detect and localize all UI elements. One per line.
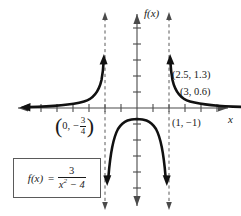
curve-left-branch — [20, 54, 108, 111]
fraction-numerator: 3 — [80, 116, 87, 125]
denominator-exponent: 2 — [64, 177, 68, 185]
formula-expression: f(x) = 3 x2 − 4 — [28, 166, 86, 191]
point-label-3-0p6: (3, 0.6) — [180, 87, 211, 98]
fraction-denominator: 4 — [80, 127, 87, 136]
denominator-rest: − 4 — [70, 179, 85, 190]
x-axis-label: x — [228, 114, 233, 125]
minus-sign: − — [73, 121, 79, 132]
paren-close: ) — [87, 117, 94, 136]
paren-open: ( — [55, 117, 62, 136]
curve-right-branch — [166, 54, 241, 107]
point-x-value: 0, — [62, 121, 70, 132]
y-axis — [133, 14, 140, 206]
rational-function-figure: f(x) x (2.5, 1.3) (3, 0.6) (1, −1) ( 0, … — [0, 0, 241, 216]
formula-numerator: 3 — [68, 166, 75, 177]
y-axis-label: f(x) — [144, 8, 159, 19]
point-label-1-neg1: (1, −1) — [172, 118, 201, 129]
formula-box: f(x) = 3 x2 − 4 — [13, 158, 101, 198]
point-label-0-neg-three-fourths: ( 0, − 3 4 ) — [55, 116, 94, 136]
point-label-2p5-1p3: (2.5, 1.3) — [172, 70, 211, 81]
fraction-three-fourths: 3 4 — [80, 116, 87, 136]
formula-fraction: 3 x2 − 4 — [58, 166, 86, 191]
formula-equals: = — [48, 172, 54, 184]
formula-denominator: x2 − 4 — [58, 178, 86, 190]
formula-lhs: f(x) — [28, 172, 43, 184]
